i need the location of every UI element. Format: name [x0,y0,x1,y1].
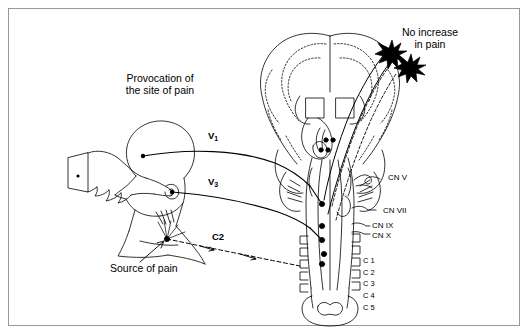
title-line-2: the site of pain [126,84,194,96]
segment-c2: C 2 [363,267,375,279]
source-of-pain-label: Source of pain [110,262,178,274]
segment-c4: C 4 [363,290,375,302]
page-title: Provocation of the site of pain [100,72,220,97]
label-cn-x: CN X [372,231,391,240]
label-cn-ix: CN IX [372,221,393,230]
segment-c3: C 3 [363,278,375,290]
title-line-1: Provocation of [126,72,193,84]
label-c2: C2 [212,231,224,242]
note-line-1: No increase [402,26,458,38]
label-cn-vii: CN VII [383,206,407,215]
anatomical-figure: Provocation of the site of pain No incre… [0,0,530,336]
segment-c5: C 5 [363,302,375,314]
no-increase-note: No increase in pain [385,26,475,51]
figure-border [8,8,520,326]
label-v3: V3 [208,176,218,187]
note-line-2: in pain [415,38,446,50]
label-v1-sub: 1 [214,135,218,142]
label-v3-sub: 3 [214,181,218,188]
cervical-segment-list: C 1 C 2 C 3 C 4 C 5 [363,255,375,313]
label-cn-v: CN V [388,173,407,182]
label-v1: V1 [208,130,218,141]
segment-c1: C 1 [363,255,375,267]
